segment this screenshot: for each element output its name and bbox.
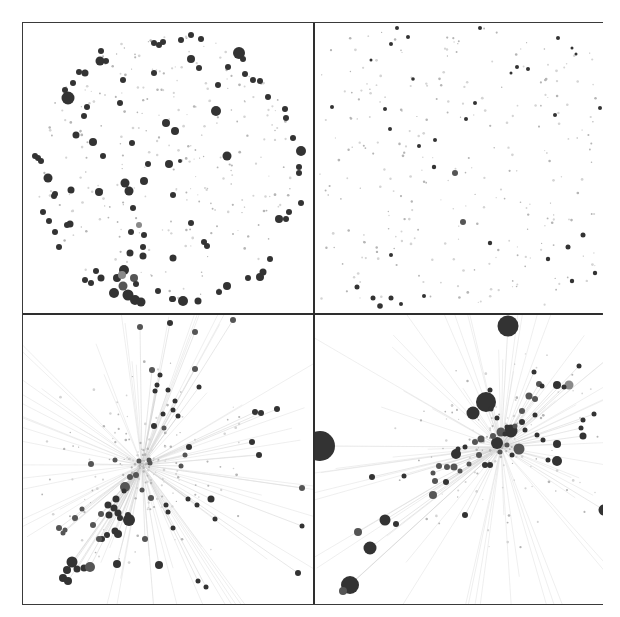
- graph-node: [56, 244, 62, 250]
- graph-node: [553, 381, 561, 389]
- graph-node: [466, 461, 471, 466]
- graph-node: [473, 101, 477, 105]
- graph-node: [128, 229, 134, 235]
- graph-node: [82, 70, 89, 77]
- graph-node: [388, 127, 392, 131]
- graph-node: [136, 222, 142, 228]
- graph-node: [515, 65, 519, 69]
- graph-node: [70, 80, 76, 86]
- graph-node: [315, 431, 335, 461]
- graph-node: [208, 495, 215, 502]
- graph-node: [274, 406, 280, 412]
- graph-node: [363, 541, 376, 554]
- graph-node: [429, 491, 437, 499]
- graph-node: [127, 474, 133, 480]
- graph-node: [113, 560, 121, 568]
- graph-node: [46, 218, 52, 224]
- graph-node: [186, 444, 192, 450]
- graph-node: [443, 479, 449, 485]
- graph-node: [64, 222, 70, 228]
- graph-node: [532, 396, 538, 402]
- graph-node: [73, 132, 80, 139]
- graph-node: [561, 384, 566, 389]
- graph-node: [149, 367, 155, 373]
- graph-node: [166, 509, 171, 514]
- graph-node: [431, 165, 435, 169]
- graph-node: [230, 317, 236, 323]
- graph-node: [490, 433, 496, 439]
- graph-node: [283, 115, 289, 121]
- network-graph-svg: [315, 23, 603, 313]
- graph-node: [155, 382, 160, 387]
- graph-node: [532, 412, 537, 417]
- graph-node: [411, 77, 415, 81]
- graph-node: [105, 501, 112, 508]
- graph-node: [256, 452, 262, 458]
- graph-node: [497, 315, 518, 336]
- graph-node: [40, 209, 46, 215]
- graph-node: [130, 274, 138, 282]
- graph-node: [598, 106, 602, 110]
- graph-node: [354, 528, 362, 536]
- graph-node: [267, 256, 273, 262]
- graph-node: [379, 514, 390, 525]
- graph-node: [389, 253, 393, 257]
- graph-node: [455, 446, 460, 451]
- graph-node: [129, 140, 135, 146]
- graph-node: [389, 42, 393, 46]
- graph-node: [158, 372, 163, 377]
- graph-node: [539, 383, 544, 388]
- graph-node: [197, 384, 202, 389]
- graph-node: [117, 515, 123, 521]
- graph-node: [130, 205, 136, 211]
- graph-node: [487, 387, 492, 392]
- graph-node: [296, 170, 302, 176]
- graph-node: [137, 298, 146, 307]
- graph-node: [62, 87, 68, 93]
- graph-node: [187, 55, 195, 63]
- graph-node: [120, 77, 126, 83]
- graph-node: [151, 70, 157, 76]
- graph-node: [109, 288, 119, 298]
- graph-node: [553, 113, 557, 117]
- graph-node: [522, 427, 527, 432]
- major-nodes: [330, 26, 602, 309]
- graph-node: [95, 188, 103, 196]
- network-graph-svg: [23, 315, 313, 604]
- graph-node: [406, 35, 410, 39]
- graph-node: [178, 296, 188, 306]
- graph-node: [195, 502, 200, 507]
- graph-node: [395, 26, 399, 30]
- graph-node: [430, 470, 435, 475]
- graph-node: [173, 398, 178, 403]
- graph-node: [119, 282, 128, 291]
- graph-node: [298, 200, 304, 206]
- graph-node: [85, 562, 95, 572]
- graph-node: [580, 417, 585, 422]
- graph-node: [98, 275, 105, 282]
- graph-node: [545, 457, 550, 462]
- graph-node: [504, 442, 509, 447]
- graph-node: [488, 406, 493, 411]
- graph-node: [369, 59, 372, 62]
- graph-node: [478, 26, 482, 30]
- graph-node: [64, 577, 72, 585]
- graph-node: [81, 113, 87, 119]
- graph-node: [494, 415, 499, 420]
- graph-node: [170, 255, 177, 262]
- graph-node: [286, 209, 292, 215]
- graph-node: [213, 516, 218, 521]
- graph-node: [369, 474, 375, 480]
- graph-node: [225, 64, 231, 70]
- graph-node: [121, 179, 130, 188]
- minor-nodes: [319, 28, 596, 306]
- graph-node: [164, 502, 169, 507]
- graph-node: [113, 495, 120, 502]
- graph-node: [476, 452, 482, 458]
- graph-node: [531, 369, 536, 374]
- graph-node: [170, 192, 176, 198]
- graph-node: [98, 48, 104, 54]
- graph-node: [433, 138, 437, 142]
- graph-node: [118, 271, 126, 279]
- graph-node: [432, 478, 438, 484]
